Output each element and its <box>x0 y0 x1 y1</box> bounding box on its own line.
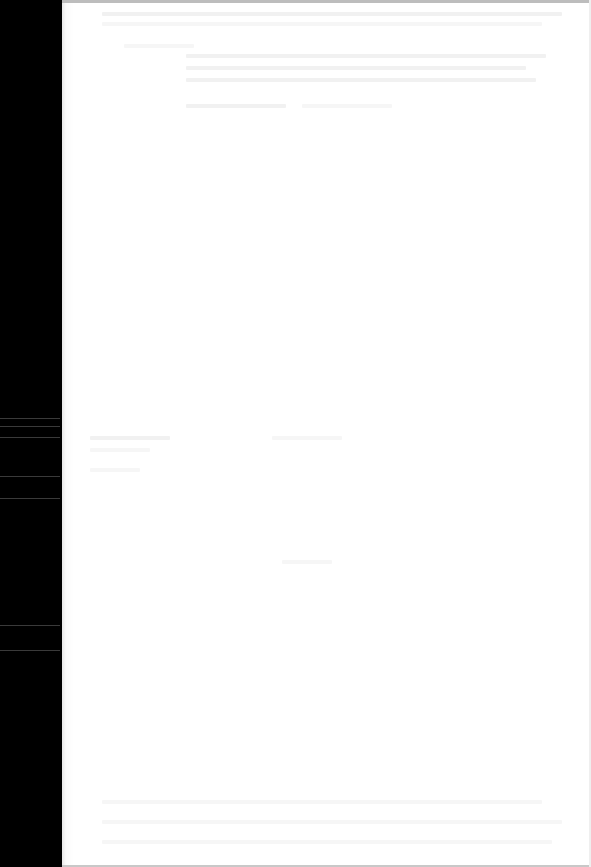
ghost-text-line <box>90 468 140 472</box>
ghost-text-line <box>186 78 536 82</box>
scan-margin-strip <box>0 0 62 867</box>
strip-artifact <box>0 437 60 438</box>
ghost-text-line <box>90 448 150 452</box>
ghost-text-line <box>124 44 194 48</box>
strip-artifact <box>0 426 60 427</box>
ghost-text-line <box>186 104 286 108</box>
page-top-edge <box>62 0 591 3</box>
strip-artifact <box>0 625 60 626</box>
ghost-text-line <box>186 54 546 58</box>
strip-artifact <box>0 498 60 499</box>
ghost-text-line <box>102 840 552 844</box>
strip-artifact <box>0 650 60 651</box>
strip-artifact <box>0 418 60 419</box>
ghost-text-line <box>272 436 342 440</box>
ghost-text-line <box>102 12 562 16</box>
ghost-text-line <box>102 22 542 26</box>
document-page <box>62 0 591 867</box>
strip-artifact <box>0 476 60 477</box>
ghost-text-line <box>186 66 526 70</box>
ghost-text-line <box>102 820 562 824</box>
ghost-text-line <box>282 560 332 564</box>
ghost-text-line <box>90 436 170 440</box>
ghost-text-line <box>102 800 542 804</box>
ghost-text-line <box>302 104 392 108</box>
